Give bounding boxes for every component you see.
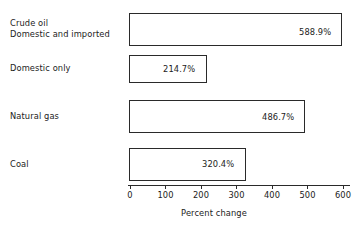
category-label-natural-gas: Natural gas (10, 111, 126, 122)
category-label-coal: Coal (10, 159, 126, 170)
category-label-domestic-only: Domestic only (10, 63, 126, 74)
x-axis-label-600: 600 (335, 190, 351, 200)
x-axis-label-200: 200 (193, 190, 209, 200)
bar-chart: Crude oil Domestic and imported Domestic… (0, 0, 364, 229)
bar-value-natural-gas: 486.7% (262, 112, 294, 122)
category-label-crude-oil: Crude oil Domestic and imported (10, 18, 126, 40)
x-axis-line (128, 185, 350, 186)
x-axis-tick-500 (307, 185, 308, 189)
x-axis-label-400: 400 (264, 190, 280, 200)
x-axis-tick-0 (130, 185, 131, 189)
bar-value-coal: 320.4% (202, 159, 234, 169)
x-axis-label-500: 500 (300, 190, 316, 200)
x-axis-tick-600 (343, 185, 344, 189)
x-axis-label-300: 300 (229, 190, 245, 200)
x-axis-tick-100 (165, 185, 166, 189)
bar-value-domestic-only: 214.7% (163, 64, 195, 74)
x-axis-title-text: Percent change (181, 208, 247, 218)
bar-value-crude-oil: 588.9% (299, 27, 331, 37)
x-axis-label-0: 0 (127, 190, 132, 200)
x-axis-tick-300 (236, 185, 237, 189)
x-axis-tick-200 (201, 185, 202, 189)
x-axis-tick-400 (272, 185, 273, 189)
x-axis-title: Percent change (0, 208, 364, 218)
x-axis-label-100: 100 (158, 190, 174, 200)
